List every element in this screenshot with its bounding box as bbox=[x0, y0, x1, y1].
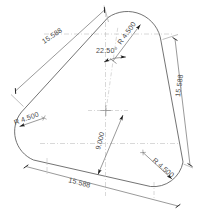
dimension-line-top-left bbox=[16, 10, 105, 91]
center-mark bbox=[101, 106, 112, 117]
dimension-radius-bottom-right: R 4.500 bbox=[143, 153, 175, 180]
construction-line-angled bbox=[106, 26, 118, 112]
construction-lines bbox=[40, 12, 178, 199]
dimension-label-side-bottom: 15.588 bbox=[67, 176, 91, 190]
dimension-side-right: 15.588 bbox=[163, 35, 194, 169]
dimension-label-angle: 22.50° bbox=[96, 47, 118, 55]
dimension-side-top-left: 15.588 bbox=[11, 6, 109, 107]
dimension-center-radial: 9.000 bbox=[94, 115, 123, 175]
cad-drawing-canvas: 15.588 R 4.500 22.50° 15.588 R 4.500 9.0… bbox=[0, 0, 199, 218]
angular-dimension-arc bbox=[104, 57, 126, 62]
dimension-line-right bbox=[175, 39, 190, 165]
dimension-label-radius-bottom-right: R 4.500 bbox=[151, 156, 176, 179]
dimension-radius-left: R 4.500 bbox=[13, 111, 44, 127]
dimension-label-side-right: 15.588 bbox=[174, 74, 185, 98]
dimension-label-side-top-left: 15.588 bbox=[41, 26, 64, 45]
dimension-label-center-radial: 9.000 bbox=[94, 131, 105, 150]
